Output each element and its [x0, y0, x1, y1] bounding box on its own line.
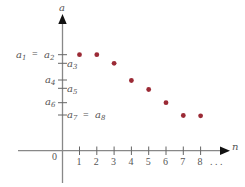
- svg-text:7: 7: [180, 156, 185, 167]
- svg-text:4: 4: [128, 156, 133, 167]
- svg-text:=: =: [32, 48, 38, 59]
- ellipsis: . . .: [210, 156, 223, 167]
- x-tick-labels: 1 2 3 4 5 6 7 8 . . .: [77, 156, 223, 167]
- point-a8: [198, 113, 203, 118]
- svg-text:2: 2: [94, 156, 99, 167]
- point-a5: [146, 87, 151, 92]
- point-a1: [77, 52, 82, 57]
- svg-text:5: 5: [73, 88, 78, 96]
- origin-label: 0: [52, 151, 57, 162]
- svg-text:4: 4: [50, 79, 55, 87]
- svg-text:3: 3: [111, 156, 116, 167]
- sequence-plot: a n 0 a1 = a2 a3 a4 a5 a6 a7 = a8 1 2: [0, 0, 245, 187]
- point-a3: [112, 61, 117, 66]
- y-tick-labels: a1 = a2 a3 a4 a5 a6 a7 = a8: [16, 48, 106, 122]
- svg-text:2: 2: [49, 54, 55, 62]
- svg-text:6: 6: [51, 101, 56, 109]
- svg-text:8: 8: [101, 114, 106, 122]
- y-axis-arrow-icon: [58, 14, 66, 24]
- svg-text:1: 1: [22, 54, 26, 62]
- svg-text:6: 6: [163, 156, 168, 167]
- x-axis-arrow-icon: [220, 147, 230, 155]
- point-a2: [94, 52, 99, 57]
- y-axis-label: a: [59, 2, 65, 13]
- svg-text:7: 7: [73, 114, 78, 122]
- svg-text:=: =: [83, 109, 89, 120]
- svg-text:1: 1: [77, 156, 82, 167]
- x-axis-label: n: [232, 141, 238, 152]
- svg-text:8: 8: [198, 156, 203, 167]
- point-a6: [164, 100, 169, 105]
- svg-text:5: 5: [146, 156, 151, 167]
- point-a7: [181, 113, 186, 118]
- svg-text:3: 3: [73, 63, 78, 71]
- point-a4: [129, 78, 134, 83]
